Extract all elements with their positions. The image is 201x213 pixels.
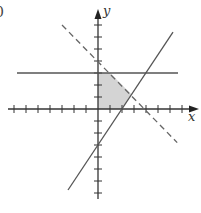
boundary-line-3 bbox=[68, 32, 173, 190]
x-axis-label: x bbox=[188, 109, 196, 124]
boundary-line-2 bbox=[62, 25, 177, 143]
y-axis-label: y bbox=[102, 3, 111, 18]
y-axis-arrow-icon bbox=[95, 9, 102, 19]
graph: x y bbox=[0, 0, 201, 213]
